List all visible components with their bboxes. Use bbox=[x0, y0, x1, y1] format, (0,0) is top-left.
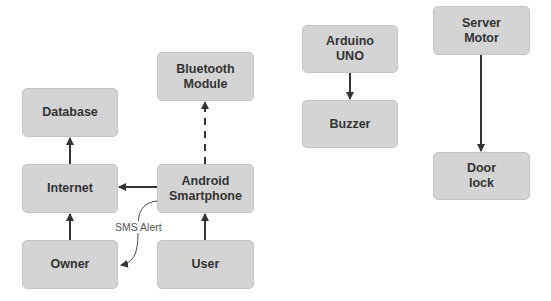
node-server-motor: Server Motor bbox=[433, 6, 530, 55]
node-arduino-uno: Arduino UNO bbox=[302, 25, 398, 73]
node-door-lock: Door lock bbox=[433, 152, 530, 200]
node-bluetooth-module: Bluetooth Module bbox=[157, 52, 254, 101]
edge-android-to-owner-sms bbox=[121, 201, 157, 265]
node-internet: Internet bbox=[22, 164, 118, 213]
node-android-smartphone: Android Smartphone bbox=[157, 164, 254, 213]
node-buzzer: Buzzer bbox=[302, 100, 398, 148]
node-owner: Owner bbox=[22, 240, 118, 289]
sms-alert-label: SMS Alert bbox=[114, 221, 163, 233]
node-user: User bbox=[157, 240, 254, 289]
node-database: Database bbox=[22, 88, 118, 137]
